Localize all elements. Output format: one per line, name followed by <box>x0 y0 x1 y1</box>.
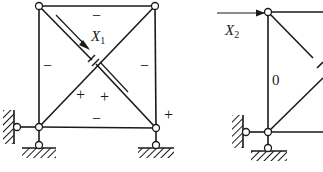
right-node-wall-icon <box>243 129 250 136</box>
node-left-wall-icon <box>14 124 21 131</box>
node-bl-support-icon <box>36 142 43 149</box>
left-vertical-sign: − <box>43 58 52 74</box>
top-chord-sign: − <box>92 8 101 24</box>
left-truss <box>3 3 174 159</box>
diagonal-upper-segment <box>39 6 92 60</box>
right-diagonal-down-member <box>268 12 313 58</box>
left-wall-hatch-icon <box>3 110 14 144</box>
bottom-chord-member <box>39 127 156 128</box>
right-vertical-member <box>155 6 156 128</box>
bottom-chord-sign: − <box>92 111 101 127</box>
left-vertical-value: 0 <box>272 73 280 88</box>
bl-ground-hatch-icon <box>22 148 56 158</box>
x2-label: X2 <box>225 23 239 40</box>
node-top-left-icon <box>36 3 43 10</box>
right-ground-hatch-icon <box>251 151 287 161</box>
x1-label: X1 <box>91 29 105 46</box>
right-vertical-sign: − <box>140 58 149 74</box>
right-node-bottom-left-icon <box>265 129 272 136</box>
node-bottom-left-icon <box>36 124 43 131</box>
diagonal-1-sign: + <box>76 87 85 103</box>
right-diagonal-stub <box>317 62 323 68</box>
node-top-right-icon <box>152 3 159 10</box>
diagonal-2-sign: + <box>100 89 109 105</box>
right-node-support-icon <box>265 145 272 152</box>
right-node-top-left-icon <box>265 9 272 16</box>
node-bottom-right-icon <box>153 125 160 132</box>
node-br-support-icon <box>153 142 160 149</box>
support-reaction-sign: + <box>164 107 173 123</box>
br-ground-hatch-icon <box>138 148 174 158</box>
right-wall-hatch-icon <box>232 115 243 148</box>
